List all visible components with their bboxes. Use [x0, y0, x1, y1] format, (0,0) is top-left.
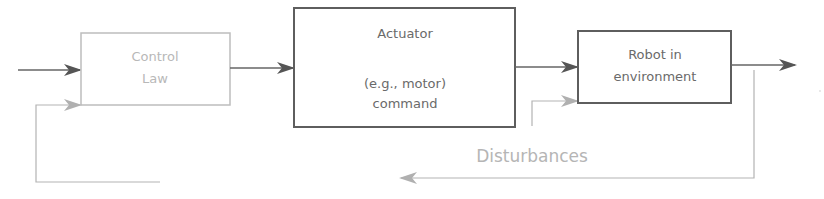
actuator-label-line2: (e.g., motor) [364, 76, 446, 91]
disturbance-input-arrow [532, 101, 577, 126]
disturbances-label: Disturbances [476, 146, 588, 166]
feedback-input-arrow [36, 105, 160, 182]
actuator-label-line3: command [373, 96, 438, 111]
actuator-block: Actuator (e.g., motor) command [294, 8, 515, 127]
robot-block: Robot in environment [578, 31, 731, 103]
control-law-label-line2: Law [142, 71, 168, 86]
control-loop-diagram: Control Law Actuator (e.g., motor) comma… [0, 0, 824, 199]
robot-label-line1: Robot in [628, 47, 682, 62]
control-law-block: Control Law [81, 33, 230, 105]
stray-dot [819, 90, 821, 92]
actuator-label-line1: Actuator [377, 26, 433, 41]
control-law-label-line1: Control [132, 49, 179, 64]
robot-label-line2: environment [614, 69, 697, 84]
